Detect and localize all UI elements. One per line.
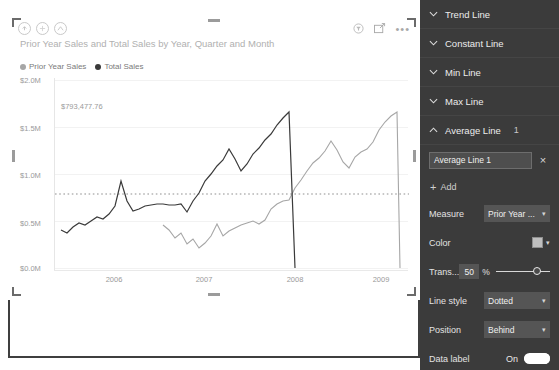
position-row: Position Behind ▾ — [420, 315, 559, 344]
visual-actions: ••• — [351, 22, 410, 35]
plus-icon: + — [430, 182, 436, 192]
x-tick-label: 2006 — [106, 275, 123, 284]
y-axis: $2.0M $1.5M $1.0M $0.5M $0.0M — [20, 78, 54, 270]
legend-label-prior-year-sales: Prior Year Sales — [29, 62, 86, 71]
color-swatch — [532, 237, 543, 248]
add-average-line-button[interactable]: + Add — [420, 175, 559, 199]
slider-track — [496, 271, 550, 272]
series-line-prior-year-sales — [163, 112, 400, 268]
line-style-dropdown[interactable]: Dotted ▾ — [484, 292, 550, 309]
data-label-toggle[interactable] — [524, 353, 550, 364]
chevron-down-icon: ▾ — [542, 210, 546, 217]
position-value: Behind — [488, 325, 514, 335]
average-line-count: 1 — [514, 125, 519, 135]
measure-dropdown[interactable]: Prior Year ... ▾ — [484, 205, 550, 222]
position-label: Position — [429, 325, 461, 335]
measure-value: Prior Year ... — [488, 209, 535, 219]
chevron-down-icon — [429, 68, 438, 77]
section-label-constant-line: Constant Line — [445, 38, 504, 49]
slider-knob[interactable] — [533, 267, 541, 275]
report-page: ••• Prior Year Sales and Total Sales by … — [0, 0, 559, 370]
x-axis: 2006 2007 2008 2009 — [54, 270, 408, 290]
section-average-line[interactable]: Average Line 1 — [420, 116, 559, 145]
data-label-row: Data label On — [420, 344, 559, 370]
position-dropdown[interactable]: Behind ▾ — [484, 321, 550, 338]
series-line-total-sales — [61, 112, 295, 268]
y-tick-label: $1.0M — [20, 171, 41, 180]
section-constant-line[interactable]: Constant Line — [420, 29, 559, 58]
chevron-down-icon — [429, 10, 438, 19]
transparency-label: Trans... — [429, 267, 459, 277]
section-label-min-line: Min Line — [445, 67, 481, 78]
focus-mode-icon[interactable] — [373, 22, 387, 35]
section-label-average-line: Average Line — [445, 125, 501, 136]
transparency-row: Trans... 50 % — [420, 257, 559, 286]
visual-header: ••• — [18, 22, 410, 38]
filter-icon[interactable] — [351, 22, 365, 35]
line-chart-visual[interactable]: ••• Prior Year Sales and Total Sales by … — [8, 12, 420, 300]
chevron-down-icon — [429, 39, 438, 48]
drill-expand-icon[interactable] — [36, 22, 49, 35]
line-style-value: Dotted — [488, 296, 513, 306]
average-line-name-row: Average Line 1 × — [420, 145, 559, 175]
visual-title: Prior Year Sales and Total Sales by Year… — [20, 38, 274, 49]
plot-area[interactable]: $793,477.76 — [54, 78, 408, 270]
chevron-down-icon: ▾ — [546, 239, 550, 247]
section-min-line[interactable]: Min Line — [420, 58, 559, 87]
transparency-slider[interactable] — [496, 266, 550, 278]
average-line-name-input[interactable]: Average Line 1 — [429, 152, 532, 169]
drill-controls — [18, 22, 67, 35]
resize-handle-left-center[interactable] — [12, 150, 15, 162]
measure-row: Measure Prior Year ... ▾ — [420, 199, 559, 228]
resize-handle-right-center[interactable] — [413, 150, 416, 162]
line-style-row: Line style Dotted ▾ — [420, 286, 559, 315]
resize-handle-bottom-right[interactable] — [407, 287, 416, 296]
add-label: Add — [440, 182, 456, 192]
section-max-line[interactable]: Max Line — [420, 87, 559, 116]
section-label-trend-line: Trend Line — [445, 9, 490, 20]
line-style-label: Line style — [429, 296, 467, 306]
x-tick-label: 2009 — [373, 275, 390, 284]
legend-item-prior-year-sales[interactable]: Prior Year Sales — [20, 62, 86, 71]
plot-container: $2.0M $1.5M $1.0M $0.5M $0.0M $793,477.7… — [20, 78, 408, 290]
toggle-knob — [539, 353, 550, 364]
y-tick-label: $2.0M — [20, 76, 41, 85]
chevron-down-icon — [429, 97, 438, 106]
transparency-unit: % — [482, 267, 490, 277]
remove-average-line-icon[interactable]: × — [536, 154, 550, 166]
data-label-label: Data label — [429, 354, 470, 364]
chevron-down-icon: ▾ — [542, 297, 546, 304]
drill-up-icon[interactable] — [18, 22, 31, 35]
format-panel: Trend Line Constant Line Min Line Max Li… — [420, 0, 559, 370]
measure-label: Measure — [429, 209, 464, 219]
chevron-up-icon — [429, 126, 438, 135]
transparency-input[interactable]: 50 — [459, 264, 479, 279]
x-tick-label: 2008 — [287, 275, 304, 284]
legend-item-total-sales[interactable]: Total Sales — [95, 62, 143, 71]
line-color-picker[interactable]: ▾ — [532, 237, 550, 248]
chart-legend: Prior Year Sales Total Sales — [20, 62, 144, 71]
y-tick-label: $0.0M — [20, 264, 41, 273]
legend-dot-prior-year-sales — [20, 64, 26, 70]
data-label-toggle-group[interactable]: On — [506, 353, 550, 364]
legend-dot-total-sales — [95, 64, 101, 70]
chart-lines — [55, 78, 409, 270]
x-tick-label: 2007 — [196, 275, 213, 284]
y-tick-label: $1.5M — [20, 123, 41, 132]
resize-handle-bottom-center[interactable] — [208, 293, 220, 296]
chevron-down-icon: ▾ — [542, 326, 546, 333]
drill-down-icon[interactable] — [54, 22, 67, 35]
y-tick-label: $0.5M — [20, 218, 41, 227]
legend-label-total-sales: Total Sales — [104, 62, 143, 71]
line-color-label: Color — [429, 238, 451, 248]
section-trend-line[interactable]: Trend Line — [420, 0, 559, 29]
section-label-max-line: Max Line — [445, 96, 484, 107]
line-color-row: Color ▾ — [420, 228, 559, 257]
data-label-state: On — [506, 354, 518, 364]
more-options-icon[interactable]: ••• — [395, 23, 410, 35]
